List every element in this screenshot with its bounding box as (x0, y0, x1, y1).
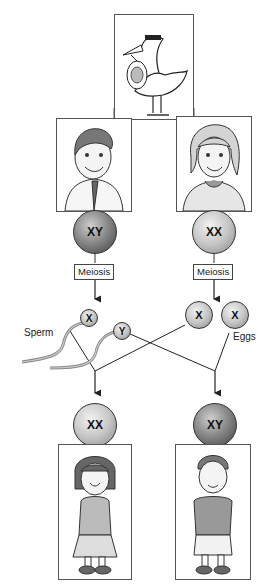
mother-frame (176, 116, 252, 212)
father-chromosomes: XY (87, 225, 103, 239)
daughter-chromosome-ball: XX (73, 403, 117, 447)
daughter-frame (58, 444, 132, 580)
egg-x-1: X (185, 301, 213, 329)
mother-meiosis-label: Meiosis (193, 264, 233, 280)
father-chromosome-ball: XY (73, 210, 117, 254)
son-frame (175, 444, 251, 580)
eggs-label: Eggs (233, 331, 256, 342)
stork-frame (114, 14, 194, 120)
father-frame (56, 118, 132, 212)
mother-chromosomes: XX (206, 225, 222, 239)
father-meiosis-label: Meiosis (74, 264, 114, 280)
stork-with-baby-icon (115, 15, 193, 119)
sperm-y: Y (113, 322, 131, 340)
boy-portrait-icon (176, 445, 250, 579)
girl-portrait-icon (59, 445, 131, 579)
sperm-x: X (80, 309, 98, 327)
father-portrait-icon (57, 119, 131, 211)
sperm-label: Sperm (24, 327, 53, 338)
mother-chromosome-ball: XX (192, 210, 236, 254)
mother-portrait-icon (177, 117, 251, 211)
egg-x-2: X (221, 301, 249, 329)
son-chromosome-ball: XY (193, 403, 237, 447)
